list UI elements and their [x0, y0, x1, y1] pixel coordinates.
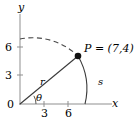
x-tick-label-3: 3	[41, 108, 48, 119]
origin-label: 0	[7, 99, 14, 110]
theta-label: θ	[36, 93, 42, 103]
x-axis-label: x	[112, 98, 118, 109]
arc-length-label: s	[98, 77, 103, 87]
dashed-circle-arc	[20, 38, 78, 56]
point-p-marker	[75, 53, 82, 60]
polar-coordinates-figure: y x 0 6 3 3 6 r θ s P = (7,4)	[0, 0, 134, 123]
point-p-label: P = (7,4)	[84, 43, 134, 54]
y-tick-label-6: 6	[5, 42, 12, 53]
radius-segment	[20, 56, 78, 104]
y-axis-label: y	[18, 2, 24, 13]
x-tick-label-6: 6	[65, 108, 72, 119]
arc-length-s-path	[78, 56, 87, 104]
y-tick-label-3: 3	[5, 70, 12, 81]
radius-label: r	[40, 77, 45, 87]
